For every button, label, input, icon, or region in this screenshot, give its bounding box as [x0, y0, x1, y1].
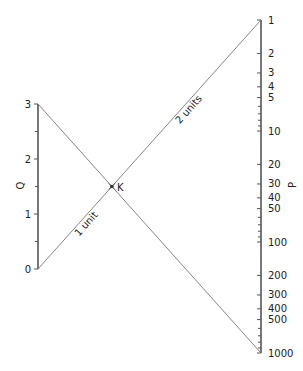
p-axis-title: P [287, 182, 298, 188]
p-tick-label: 50 [268, 203, 281, 214]
p-tick-label: 400 [268, 303, 287, 314]
p-tick-label: 1 [268, 15, 274, 26]
segment-label-1-unit: 1 unit [72, 209, 100, 238]
q-tick-label: 2 [25, 154, 31, 165]
point-k-label: K [117, 182, 124, 193]
p-tick-label: 10 [268, 126, 281, 137]
q-tick-label: 0 [25, 264, 31, 275]
p-axis: 1234510203040501002003004005001000P [257, 15, 298, 359]
q-tick-label: 3 [25, 99, 31, 110]
p-tick-label: 1000 [268, 348, 293, 359]
p-tick-label: 200 [268, 270, 287, 281]
nomogram: 0123Q 1234510203040501002003004005001000… [0, 0, 303, 371]
q-axis-title: Q [15, 181, 26, 189]
q-axis: 0123Q [15, 99, 38, 275]
construction-lines [38, 20, 261, 353]
p-tick-label: 4 [268, 81, 274, 92]
line-q3-p1000 [38, 104, 261, 353]
p-tick-label: 300 [268, 289, 287, 300]
p-tick-label: 5 [268, 92, 274, 103]
q-tick-label: 1 [25, 209, 31, 220]
p-tick-label: 40 [268, 192, 281, 203]
p-tick-label: 30 [268, 178, 281, 189]
p-tick-label: 3 [268, 67, 274, 78]
line-q0-p1 [38, 20, 261, 269]
p-tick-label: 100 [268, 237, 287, 248]
p-tick-label: 500 [268, 314, 287, 325]
p-tick-label: 2 [268, 48, 274, 59]
segment-label-2-units: 2 units [173, 93, 204, 126]
p-tick-label: 20 [268, 159, 281, 170]
